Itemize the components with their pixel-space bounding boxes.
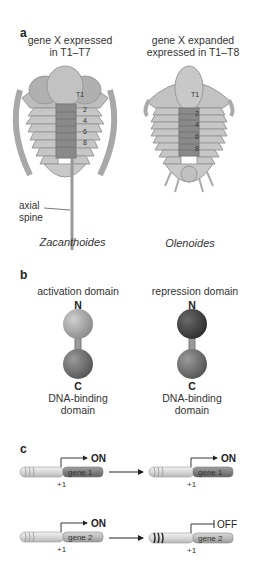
caption-line-1: DNA-binding — [142, 392, 242, 404]
segment-label-2: 2 — [195, 110, 199, 117]
gene-1-before-state: ON — [91, 453, 106, 464]
gene-regulation-diagram: ON gene 1 +1 ON gene 1 +1 ON gene 2 +1 O… — [0, 450, 253, 570]
c-terminus-label: C — [68, 380, 88, 392]
axial-spine-label-line-1: axial — [19, 200, 43, 212]
repression-domain-label: repression domain — [140, 285, 250, 297]
olenoides-trilobite-illustration: T1 2 4 6 8 — [125, 60, 253, 210]
caption-line-1: DNA-binding — [28, 392, 128, 404]
gene-1-after-position: +1 — [187, 480, 197, 489]
gene-1-after-name: gene 1 — [198, 468, 223, 477]
gene-2-after-name: gene 2 — [198, 534, 223, 543]
zacanthoides-caption: gene X expressed in T1–T7 — [20, 34, 120, 58]
caption-line-2: domain — [28, 404, 128, 416]
gene-1-after-state: ON — [221, 453, 236, 464]
segment-label-4: 4 — [83, 117, 87, 124]
segment-label-8: 8 — [195, 145, 199, 152]
activation-protein-model — [63, 309, 93, 379]
c-terminus-label: C — [182, 380, 202, 392]
segment-label-t1: T1 — [76, 91, 84, 98]
repression-protein-model — [177, 309, 207, 379]
caption-line-1: gene X expanded — [138, 34, 248, 46]
repression-domain-ball — [177, 309, 207, 339]
dna-binding-domain-ball — [177, 349, 207, 379]
segment-label-6: 6 — [83, 128, 87, 135]
olenoides-species-label: Olenoides — [150, 237, 230, 249]
dna-binding-domain-caption: DNA-binding domain — [28, 392, 128, 416]
segment-label-6: 6 — [195, 133, 199, 140]
gene-1-before-position: +1 — [57, 480, 67, 489]
segment-label-2: 2 — [83, 106, 87, 113]
caption-line-2: in T1–T7 — [20, 46, 120, 58]
caption-line-2: expressed in T1–T8 — [138, 46, 248, 58]
segment-label-4: 4 — [195, 121, 199, 128]
gene-1-before-name: gene 1 — [68, 468, 93, 477]
gene-2-after-state: OFF — [217, 519, 237, 530]
caption-line-1: gene X expressed — [20, 34, 120, 46]
olenoides-caption: gene X expanded expressed in T1–T8 — [138, 34, 248, 58]
axial-spine-label: axial spine — [19, 200, 43, 224]
gene-2-before-name: gene 2 — [68, 533, 93, 542]
dna-binding-domain-caption: DNA-binding domain — [142, 392, 242, 416]
gene-2-after-position: +1 — [187, 546, 197, 555]
gene-2-before-state: ON — [91, 518, 106, 529]
zacanthoides-species-label: Zacanthoides — [30, 236, 115, 248]
panel-b-label: b — [20, 268, 27, 282]
caption-line-2: domain — [142, 404, 242, 416]
segment-label-8: 8 — [83, 139, 87, 146]
activation-domain-ball — [63, 309, 93, 339]
axial-spine-label-line-2: spine — [19, 212, 43, 224]
segment-label-t1: T1 — [191, 91, 199, 98]
dna-binding-domain-ball — [63, 349, 93, 379]
zacanthoides-trilobite-illustration: T1 2 4 6 8 — [0, 60, 130, 260]
activation-domain-label: activation domain — [28, 285, 128, 297]
gene-2-before-position: +1 — [57, 545, 67, 554]
